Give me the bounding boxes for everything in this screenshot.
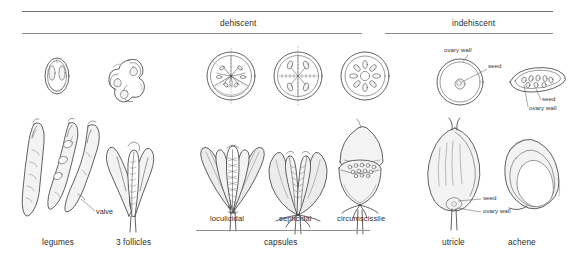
legume-pod-closed-drawing xyxy=(22,119,44,216)
caption-legumes: legumes xyxy=(42,238,74,246)
utricle-cross-section-drawing xyxy=(437,55,487,105)
callout-ovary-wall-utricle-whole: ovary wall xyxy=(483,208,511,214)
capsules-group-rule xyxy=(196,230,370,231)
callout-seed-achene-cross: seed xyxy=(542,96,555,102)
group-label-capsules: capsules xyxy=(264,238,298,246)
loculicidal-cross-section-drawing xyxy=(207,48,255,104)
follicles-whole-drawing xyxy=(106,142,153,232)
follicles-cross-section-drawing xyxy=(109,59,145,102)
fruit-types-plate: dehiscent indehiscent xyxy=(0,0,575,265)
achene-cross-section-drawing xyxy=(510,68,565,107)
legume-cross-section-drawing xyxy=(45,58,69,94)
achene-whole-drawing xyxy=(505,139,560,209)
caption-achene: achene xyxy=(508,238,536,246)
septicidal-cross-section-drawing xyxy=(274,46,322,106)
illustration-canvas xyxy=(0,0,575,265)
caption-circumscissile: circumscissile xyxy=(337,215,385,223)
caption-follicles: 3 follicles xyxy=(116,238,151,246)
caption-loculicidal: loculicidal xyxy=(210,215,244,223)
caption-utricle: utricle xyxy=(442,238,465,246)
callout-valve: valve xyxy=(96,208,113,215)
callout-ovary-wall-achene-cross: ovary wall xyxy=(529,105,557,111)
caption-septicidal: septicidal xyxy=(279,215,312,223)
callout-ovary-wall-utricle-cross: ovary wall xyxy=(444,47,472,53)
callout-seed-utricle-cross: seed xyxy=(488,63,501,69)
callout-seed-utricle-whole: seed xyxy=(483,195,496,201)
circumscissile-cross-section-drawing xyxy=(341,52,389,100)
utricle-whole-drawing xyxy=(428,118,481,230)
